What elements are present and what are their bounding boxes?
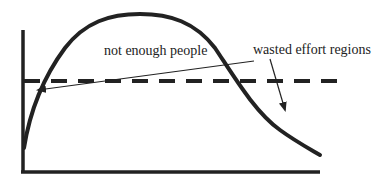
wasted-effort-regions-label: wasted effort regions bbox=[253, 42, 371, 58]
not-enough-people-arrow bbox=[38, 61, 254, 90]
not-enough-people-label: not enough people bbox=[104, 43, 207, 59]
effort-vs-people-diagram: not enough people wasted effort regions bbox=[0, 0, 383, 184]
wasted-effort-arrow bbox=[270, 59, 285, 110]
effort-curve bbox=[24, 14, 320, 155]
diagram-canvas bbox=[0, 0, 383, 184]
